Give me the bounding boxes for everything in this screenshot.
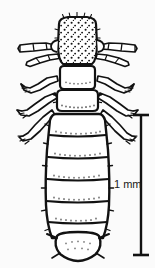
antenna-right-lower bbox=[96, 54, 129, 67]
louse-line-drawing bbox=[0, 0, 155, 268]
scale-bar-label: 1 mm bbox=[114, 178, 142, 190]
mesothorax bbox=[53, 90, 101, 111]
antenna-left-lower bbox=[26, 54, 59, 67]
specimen-figure: 1 mm bbox=[0, 0, 155, 268]
prothorax bbox=[60, 66, 95, 89]
abdomen bbox=[41, 114, 113, 238]
terminal-segment bbox=[47, 232, 109, 261]
head bbox=[51, 13, 104, 64]
